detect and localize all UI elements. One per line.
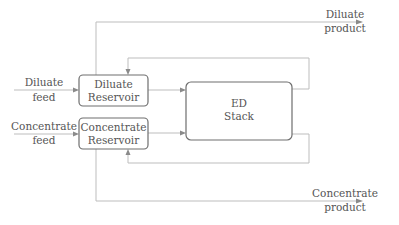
diluate-product-label-1: Diluate xyxy=(326,8,365,20)
diluate-product-label-2: product xyxy=(324,22,366,34)
concentrate-reservoir-label-2: Reservoir xyxy=(88,134,140,146)
arrow-head-icon xyxy=(180,131,186,136)
ed-process-diagram: Diluate Reservoir Concentrate Reservoir … xyxy=(0,0,399,225)
concentrate-product-label-2: product xyxy=(324,201,366,213)
ed-stack-label-2: Stack xyxy=(224,110,255,122)
ed-stack-label-1: ED xyxy=(231,97,247,109)
ed-stack-node: ED Stack xyxy=(186,82,292,140)
diluate-reservoir-node: Diluate Reservoir xyxy=(79,75,148,106)
arrow-head-icon xyxy=(73,88,79,93)
concentrate-reservoir-node: Concentrate Reservoir xyxy=(79,118,148,149)
arrow-head-icon xyxy=(126,149,131,155)
arrow-head-icon xyxy=(126,69,131,75)
diluate-feed-label-1: Diluate xyxy=(25,76,64,88)
diluate-product-flow xyxy=(96,20,363,76)
diluate-to-stack-flow xyxy=(148,88,186,93)
arrow-head-icon xyxy=(73,132,79,137)
concentrate-to-stack-flow xyxy=(148,131,186,136)
concentrate-feed-label-1: Concentrate xyxy=(11,120,77,132)
concentrate-feed-label-2: feed xyxy=(32,134,55,146)
concentrate-reservoir-label-1: Concentrate xyxy=(81,121,147,133)
diluate-reservoir-label-2: Reservoir xyxy=(88,91,140,103)
diluate-feed-label-2: feed xyxy=(32,91,55,103)
concentrate-product-label-1: Concentrate xyxy=(312,187,378,199)
diluate-reservoir-label-1: Diluate xyxy=(94,78,133,90)
arrow-head-icon xyxy=(180,88,186,93)
